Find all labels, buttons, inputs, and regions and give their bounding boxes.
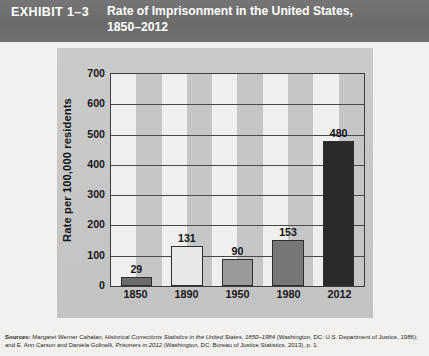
y-axis-tick-label: 300 [61, 188, 105, 200]
x-axis-tick-label: 1850 [110, 288, 161, 300]
bar-1850[interactable]: 29 [121, 277, 152, 286]
chart-panel: Rate per 100,000 residents 7006005004003… [57, 48, 373, 318]
x-axis-tick-label: 1890 [161, 288, 212, 300]
bar-2012[interactable]: 480 [323, 141, 354, 286]
bar-slot: 153 [263, 74, 314, 286]
source-text-3: (Washington, DC: Bureau of Justice Stati… [162, 342, 318, 348]
source-label: Sources: [5, 334, 31, 340]
y-axis-tick-label: 500 [61, 128, 105, 140]
y-axis-tick-label: 400 [61, 158, 105, 170]
source-note: Sources: Margaret Werner Cahalan, Histor… [5, 333, 426, 349]
bar-1980[interactable]: 153 [272, 240, 303, 286]
bar-value-label: 29 [130, 263, 142, 275]
exhibit-number-label: EXHIBIT 1–3 [11, 4, 89, 20]
bar-value-label: 131 [178, 232, 196, 244]
bar-slot: 480 [313, 74, 364, 286]
bar-value-label: 153 [279, 226, 297, 238]
bar-slot: 131 [162, 74, 213, 286]
bar-slot: 29 [111, 74, 162, 286]
bar-value-label: 90 [232, 245, 244, 257]
x-axis-tick-labels: 18501890195019802012 [110, 288, 365, 300]
exhibit-header-banner: EXHIBIT 1–3 Rate of Imprisonment in the … [0, 0, 429, 42]
x-axis-tick-label: 1980 [263, 288, 314, 300]
y-axis-tick-label: 200 [61, 218, 105, 230]
bar-1890[interactable]: 131 [171, 246, 202, 286]
page-title: Rate of Imprisonment in the United State… [107, 4, 365, 35]
y-axis-tick-label: 700 [61, 67, 105, 79]
x-axis-tick-label: 2012 [314, 288, 365, 300]
plot-area: 2913190153480 [110, 73, 365, 287]
bar-series: 2913190153480 [111, 74, 364, 286]
bar-slot: 90 [212, 74, 263, 286]
bar-1950[interactable]: 90 [222, 259, 253, 286]
y-axis-tick-label: 600 [61, 97, 105, 109]
source-citation-1: Historical Corrections Statistics in the… [105, 334, 275, 340]
y-axis-tick-labels: 7006005004003002001000 [57, 73, 105, 285]
x-axis-tick-label: 1950 [212, 288, 263, 300]
exhibit-header-inner: EXHIBIT 1–3 Rate of Imprisonment in the … [11, 4, 421, 35]
bar-value-label: 480 [330, 127, 348, 139]
y-axis-tick-label: 100 [61, 249, 105, 261]
source-text-1: Margaret Werner Cahalan, [31, 334, 105, 340]
y-axis-tick-label: 0 [61, 279, 105, 291]
source-citation-2: Prisoners in 2012 [115, 342, 162, 348]
